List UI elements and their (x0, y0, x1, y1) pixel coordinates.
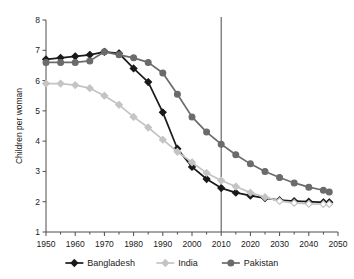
y-tick-label: 4 (35, 136, 40, 146)
legend-item-pakistan[interactable]: Pakistan (222, 258, 279, 268)
data-point (218, 177, 225, 184)
x-tick-label: 2040 (299, 239, 318, 249)
data-point (131, 55, 137, 61)
data-point (175, 91, 181, 97)
data-point (218, 141, 224, 147)
x-tick-label: 2020 (241, 239, 260, 249)
fertility-line-chart: 12345678 1950196019701980199020002010202… (0, 0, 354, 279)
y-tick-label: 5 (35, 106, 40, 116)
chart-series (43, 49, 333, 208)
series-bangladesh (43, 49, 333, 206)
x-tick-label: 2050 (329, 239, 348, 249)
x-tick-label: 1960 (66, 239, 85, 249)
x-tick-label: 2030 (270, 239, 289, 249)
series-pakistan (43, 49, 332, 195)
series-india (43, 80, 333, 207)
data-point (57, 80, 64, 87)
y-axis-title: Children per woman (14, 88, 24, 164)
legend-label: India (178, 258, 198, 268)
y-tick-label: 8 (35, 15, 40, 25)
data-point (291, 180, 297, 186)
data-point (72, 60, 78, 66)
y-axis: 12345678 (35, 15, 46, 237)
data-point (248, 161, 254, 167)
x-tick-label: 1990 (153, 239, 172, 249)
x-tick-label: 2000 (183, 239, 202, 249)
data-point (87, 85, 94, 92)
data-point (321, 187, 327, 193)
y-tick-label: 6 (35, 76, 40, 86)
data-point (87, 52, 94, 59)
data-point (160, 70, 166, 76)
data-point (277, 175, 283, 181)
data-point (72, 82, 79, 89)
data-point (145, 60, 151, 66)
data-point (116, 52, 122, 58)
legend-swatch-marker (162, 260, 169, 267)
data-point (43, 60, 49, 66)
chart-legend: BangladeshIndiaPakistan (65, 258, 278, 268)
chart-canvas: 12345678 1950196019701980199020002010202… (0, 0, 354, 279)
data-point (72, 53, 79, 60)
y-tick-label: 2 (35, 197, 40, 207)
data-point (306, 184, 312, 190)
data-point (58, 60, 64, 66)
series-line (46, 52, 329, 192)
data-point (262, 169, 268, 175)
data-point (43, 80, 50, 87)
x-tick-label: 2010 (212, 239, 231, 249)
legend-swatch-marker (228, 260, 234, 266)
x-tick-label: 1980 (124, 239, 143, 249)
data-point (233, 183, 240, 190)
data-point (204, 129, 210, 135)
data-point (189, 114, 195, 120)
legend-item-bangladesh[interactable]: Bangladesh (65, 258, 135, 268)
data-point (160, 109, 167, 116)
y-tick-label: 3 (35, 166, 40, 176)
legend-label: Bangladesh (87, 258, 135, 268)
data-point (87, 58, 93, 64)
legend-item-india[interactable]: India (156, 258, 198, 268)
x-tick-label: 1970 (95, 239, 114, 249)
data-point (326, 189, 332, 195)
x-axis: 1950196019701980199020002010202020302040… (37, 232, 348, 249)
y-tick-label: 1 (35, 227, 40, 237)
data-point (233, 152, 239, 158)
legend-label: Pakistan (244, 258, 279, 268)
data-point (102, 49, 108, 55)
x-tick-label: 1950 (37, 239, 56, 249)
legend-swatch-marker (71, 260, 78, 267)
series-line (46, 84, 329, 205)
y-tick-label: 7 (35, 45, 40, 55)
